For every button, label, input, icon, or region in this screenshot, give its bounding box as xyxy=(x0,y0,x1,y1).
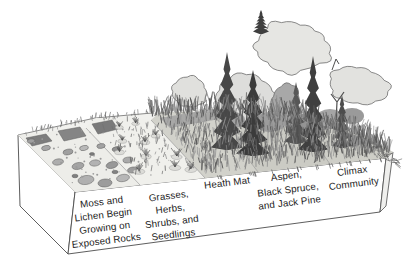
succession-diagram: Moss and Lichen Begin Growing on Exposed… xyxy=(0,0,403,264)
bird-mark xyxy=(332,59,339,70)
stage-label-grasses-herbs: Grasses, Herbs, Shrubs, and Seedlings xyxy=(128,184,214,245)
